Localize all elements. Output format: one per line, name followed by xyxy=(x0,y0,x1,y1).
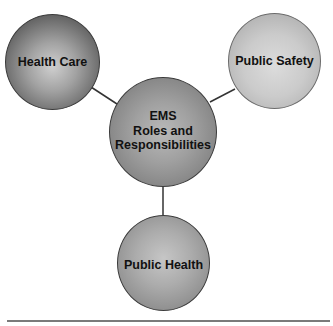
ems-roles-diagram: Health Care Public Safety EMS Roles and … xyxy=(0,0,333,326)
connector-health-care xyxy=(91,87,117,104)
node-health-care-label: Health Care xyxy=(18,55,87,70)
bottom-divider xyxy=(7,320,330,322)
node-public-safety-label: Public Safety xyxy=(235,54,314,69)
node-health-care: Health Care xyxy=(5,14,100,110)
node-public-health: Public Health xyxy=(117,215,210,311)
node-ems-center-label: EMS Roles and Responsibilities xyxy=(115,109,211,153)
connector-public-safety xyxy=(210,89,235,102)
node-public-health-label: Public Health xyxy=(124,258,203,273)
node-ems-center: EMS Roles and Responsibilities xyxy=(109,77,217,187)
node-public-safety: Public Safety xyxy=(228,13,321,109)
